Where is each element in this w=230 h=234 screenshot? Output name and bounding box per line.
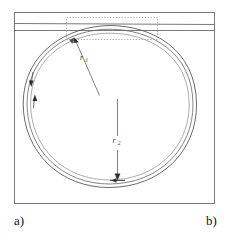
ring-inner-contour [31,33,190,180]
figure-drawing: r 1 r 2 [0,0,230,234]
band-top-line [15,24,215,25]
panel-caption-a: a) [14,214,24,227]
leader-line-r1 [70,38,100,96]
contact-region-highlight [67,18,158,40]
label-r1-subscript: 1 [85,57,88,63]
ring-outer-contour [23,26,196,188]
label-r1-symbol: r [80,53,84,62]
panel-caption-b: b) [206,214,217,227]
figure-container: r 1 r 2 a) b) [0,0,230,234]
label-r2-symbol: r [113,136,117,145]
label-r2: r 2 [113,136,121,146]
enclosure-frame [15,13,215,204]
rotation-arrow-inner [33,95,38,109]
ring-cross-section [23,26,196,188]
label-r1: r 1 [80,53,88,63]
ring-mid-contour [27,29,193,184]
label-r2-subscript: 2 [118,140,121,146]
